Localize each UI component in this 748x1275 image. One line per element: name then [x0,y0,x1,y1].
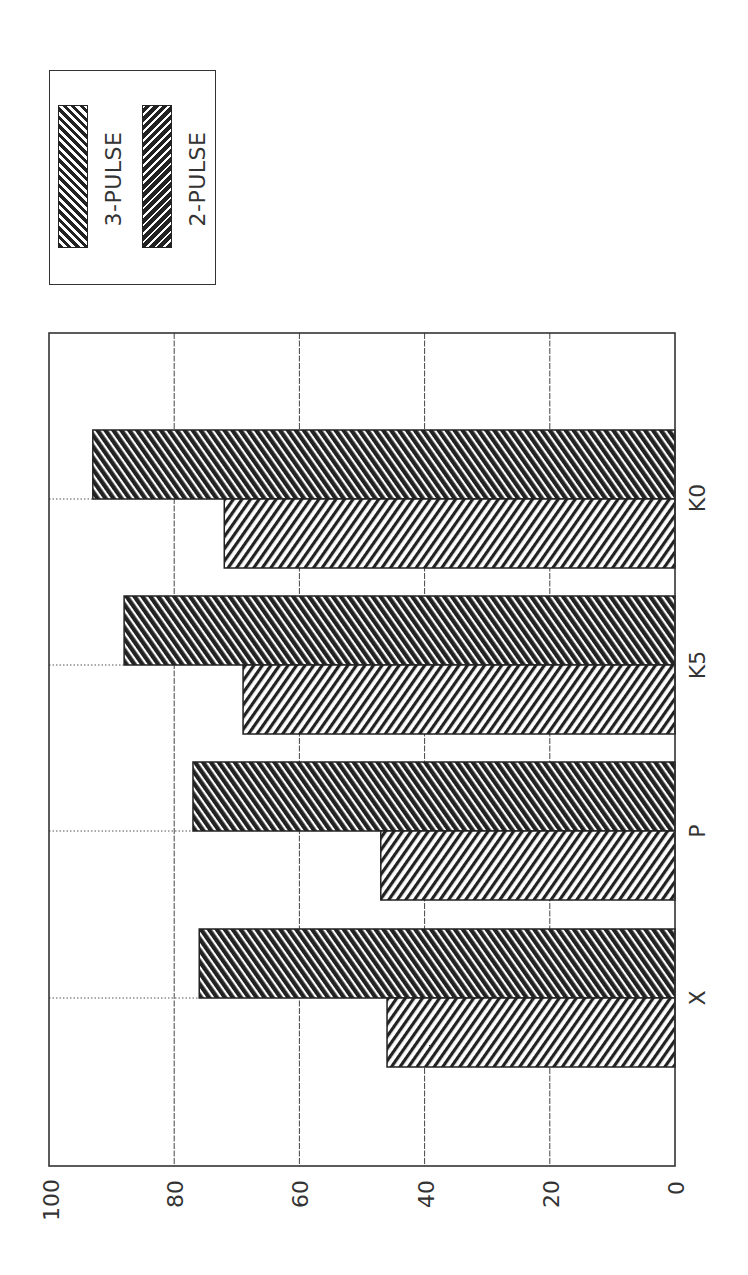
category-text: P [685,824,710,837]
tick-text: 60 [288,1180,313,1208]
tick-text: 20 [539,1180,564,1208]
bar-2-pulse-k5 [124,596,675,665]
legend-swatch-2-pulse [142,105,172,248]
legend: 3-PULSE 2-PULSE [49,70,216,285]
bar-3-pulse-x [387,998,675,1067]
bar-2-pulse-x [199,929,675,998]
bar-3-pulse-p [381,831,675,900]
legend-text-3-pulse: 3-PULSE [101,132,126,227]
bar-series [93,430,675,1067]
bar-3-pulse-k5 [243,665,675,734]
bar-2-pulse-p [193,762,675,831]
tick-text: 0 [664,1181,689,1195]
category-text: K0 [685,484,710,512]
category-text: K5 [685,651,710,679]
tick-text: 100 [39,1179,64,1221]
category-tick-lines [49,499,199,998]
bar-3-pulse-k0 [224,499,675,568]
bar-2-pulse-k0 [93,430,675,499]
legend-text-2-pulse: 2-PULSE [185,132,210,227]
tick-text: 40 [414,1180,439,1208]
category-text: X [685,990,710,1005]
legend-swatch-3-pulse [58,105,88,248]
tick-text: 80 [163,1180,188,1208]
